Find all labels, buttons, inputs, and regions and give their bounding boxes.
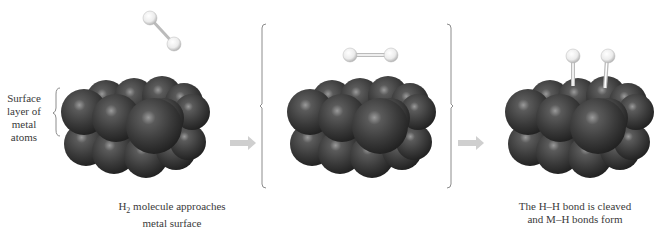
h2-molecule-tilted (143, 11, 181, 51)
label-line: Surface (0, 92, 48, 105)
surface-layer-brace (53, 88, 60, 136)
label-line: atoms (0, 131, 48, 144)
arrow-2 (458, 136, 484, 150)
label-line: layer of (0, 105, 48, 118)
label-line: metal (0, 118, 48, 131)
caption-line: The H–H bond is cleaved (495, 200, 655, 213)
caption-line: and M–H bonds form (495, 213, 655, 226)
panel-2-h2-adsorbed (287, 76, 436, 178)
h2-molecule-horizontal (343, 48, 398, 62)
bracket-right (447, 24, 453, 188)
panel-1-h2-approaching (61, 76, 210, 178)
surface-layer-label: Surface layer of metal atoms (0, 92, 48, 144)
caption-line: metal surface (92, 217, 252, 230)
caption-cleaved: The H–H bond is cleaved and M–H bonds fo… (495, 200, 655, 226)
arrow-1 (230, 136, 256, 150)
bracket-left (260, 24, 266, 188)
caption-line: H2 molecule approaches (92, 200, 252, 217)
diagram-canvas (0, 0, 665, 234)
caption-approach: H2 molecule approaches metal surface (92, 200, 252, 230)
panel-3-mh-bonds (505, 76, 654, 178)
